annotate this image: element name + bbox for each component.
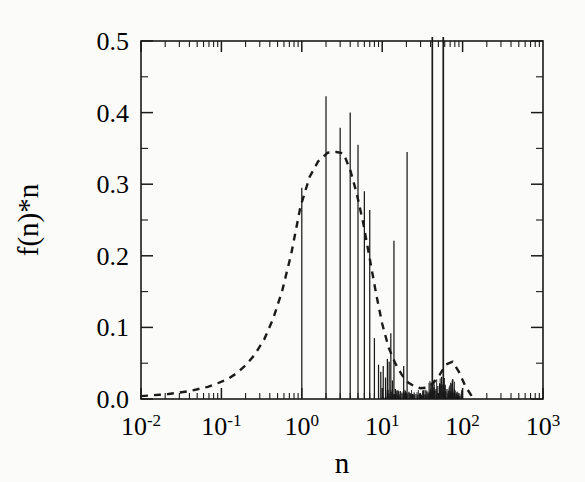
figure-container: 0.00.10.20.30.40.510-210-1100101102103nf… [0,0,585,482]
x-tick-label: 103 [526,411,561,442]
x-tick-label: 102 [445,411,480,442]
plot-frame [141,41,543,399]
spike-series [302,27,462,399]
y-axis-label: f(n)*n [12,183,45,256]
y-tick-label: 0.3 [97,170,130,199]
y-tick-label: 0.4 [97,99,130,128]
x-axis-label: n [335,447,350,479]
x-tick-label: 100 [285,411,320,442]
x-tick-label: 101 [365,411,400,442]
y-tick-label: 0.5 [97,27,130,56]
y-tick-label: 0.1 [97,313,130,342]
theoretical-curve [141,152,472,396]
y-tick-label: 0.0 [97,385,130,414]
chart-plot: 0.00.10.20.30.40.510-210-1100101102103nf… [0,0,585,482]
y-tick-label: 0.2 [97,242,130,271]
x-tick-label: 10-2 [121,411,161,442]
x-tick-label: 10-1 [201,411,241,442]
